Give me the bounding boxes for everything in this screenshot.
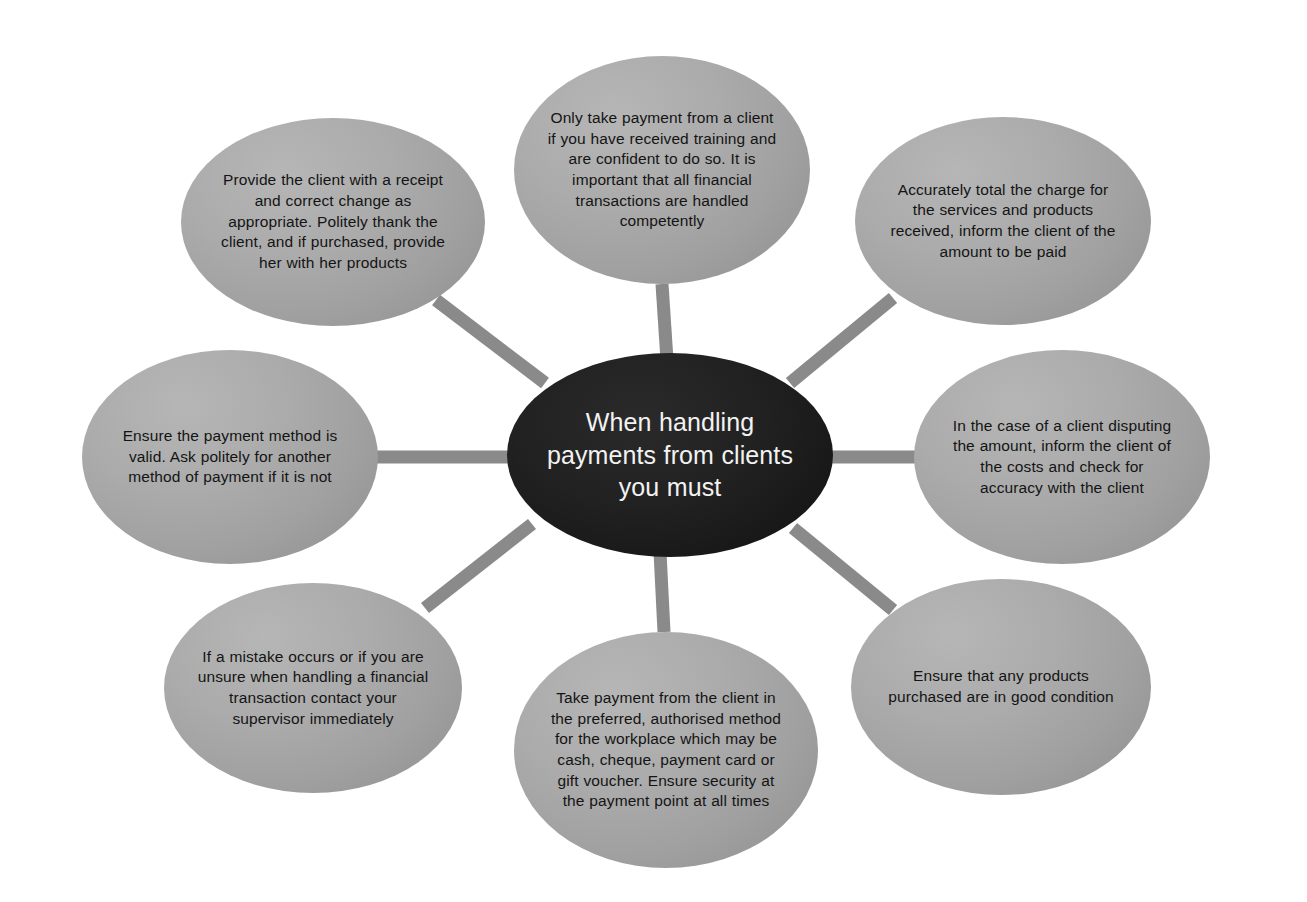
- satellite-label-bottom-left: If a mistake occurs or if you are unsure…: [197, 647, 429, 729]
- satellite-label-top-left: Provide the client with a receipt and co…: [214, 170, 451, 273]
- diagram-canvas: When handling payments from clients you …: [0, 0, 1307, 902]
- satellite-label-top: Only take payment from a client if you h…: [547, 108, 778, 232]
- spoke-top: [662, 284, 667, 360]
- hub-label: When handling payments from clients you …: [533, 406, 807, 504]
- satellite-label-top-right: Accurately total the charge for the serv…: [888, 180, 1119, 262]
- satellite-node-bottom-right[interactable]: Ensure that any products purchased are i…: [851, 579, 1151, 795]
- spoke-bottom-left: [425, 524, 532, 608]
- satellite-node-right[interactable]: In the case of a client disputing the am…: [914, 350, 1210, 564]
- spoke-top-left: [436, 300, 545, 383]
- satellite-node-top[interactable]: Only take payment from a client if you h…: [514, 56, 810, 284]
- spoke-top-right: [790, 298, 893, 383]
- satellite-node-top-right[interactable]: Accurately total the charge for the serv…: [855, 117, 1151, 325]
- satellite-node-top-left[interactable]: Provide the client with a receipt and co…: [181, 118, 485, 326]
- hub-node[interactable]: When handling payments from clients you …: [507, 353, 833, 557]
- satellite-label-right: In the case of a client disputing the am…: [947, 416, 1178, 498]
- satellite-node-left[interactable]: Ensure the payment method is valid. Ask …: [82, 350, 378, 564]
- spoke-bottom: [660, 552, 664, 632]
- satellite-node-bottom[interactable]: Take payment from the client in the pref…: [514, 632, 818, 868]
- satellite-label-bottom-right: Ensure that any products purchased are i…: [884, 666, 1118, 707]
- satellite-label-bottom: Take payment from the client in the pref…: [547, 688, 784, 812]
- satellite-label-left: Ensure the payment method is valid. Ask …: [115, 426, 346, 488]
- satellite-node-bottom-left[interactable]: If a mistake occurs or if you are unsure…: [164, 583, 462, 793]
- spoke-bottom-right: [793, 528, 893, 610]
